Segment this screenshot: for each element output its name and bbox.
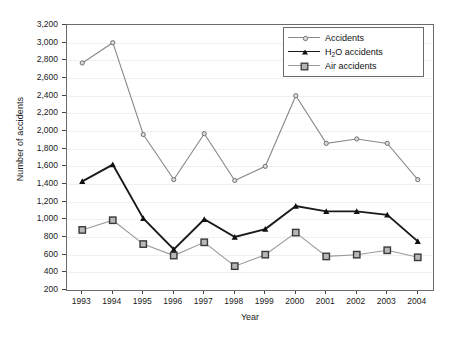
x-tick-label: 1999	[247, 296, 281, 306]
data-point	[110, 161, 116, 167]
data-point	[79, 227, 85, 233]
data-point	[171, 252, 177, 258]
y-tick-label: 3,000	[16, 37, 58, 47]
data-point	[262, 251, 268, 257]
x-tick-label: 1994	[95, 296, 129, 306]
data-point	[263, 164, 267, 168]
y-tick-label: 800	[16, 231, 58, 241]
data-point	[233, 178, 237, 182]
x-tick-label: 2000	[278, 296, 312, 306]
data-point	[202, 132, 206, 136]
x-tick-label: 2002	[339, 296, 373, 306]
series-h2o-accidents	[79, 161, 421, 252]
y-tick-label: 3,200	[16, 19, 58, 29]
x-axis-title: Year	[60, 312, 440, 322]
data-point	[416, 177, 420, 181]
x-tick-label: 1996	[156, 296, 190, 306]
legend-item-accidents[interactable]: Accidents	[287, 31, 419, 45]
legend-symbol-circle-icon	[287, 32, 321, 44]
legend-label-h2o-accidents: H2O accidents	[321, 47, 383, 57]
data-point	[384, 247, 390, 253]
x-tick-label: 2004	[400, 296, 434, 306]
data-point	[201, 239, 207, 245]
data-point	[324, 141, 328, 145]
data-point	[354, 251, 360, 257]
data-point	[323, 253, 329, 259]
data-point	[355, 137, 359, 141]
legend-item-h2o-accidents[interactable]: H2O accidents	[287, 45, 419, 59]
data-point	[293, 229, 299, 235]
data-point	[232, 263, 238, 269]
data-point	[415, 254, 421, 260]
x-tick-label: 2003	[369, 296, 403, 306]
data-point	[110, 217, 116, 223]
legend-symbol-triangle-icon	[287, 46, 321, 58]
legend-label-air-accidents: Air accidents	[321, 61, 377, 71]
y-axis-title: Number of accidents	[15, 79, 25, 199]
data-point	[141, 132, 145, 136]
data-point	[140, 241, 146, 247]
x-tick-label: 1995	[125, 296, 159, 306]
legend-label-accidents: Accidents	[321, 33, 364, 43]
data-point	[201, 216, 207, 222]
y-tick-label: 1,000	[16, 213, 58, 223]
y-tick-label: 2,800	[16, 54, 58, 64]
x-tick-label: 2001	[308, 296, 342, 306]
legend-symbol-square-icon	[287, 60, 321, 72]
x-tick-label: 1998	[217, 296, 251, 306]
x-tick-label: 1997	[186, 296, 220, 306]
y-tick-label: 200	[16, 284, 58, 294]
data-point	[80, 61, 84, 65]
y-tick-label: 400	[16, 266, 58, 276]
chart-legend: Accidents H2O accidents Air accidents	[283, 27, 424, 77]
x-tick-label: 1993	[64, 296, 98, 306]
data-point	[111, 41, 115, 45]
data-point	[294, 94, 298, 98]
data-point	[385, 141, 389, 145]
legend-item-air-accidents[interactable]: Air accidents	[287, 59, 419, 73]
y-tick-label: 600	[16, 249, 58, 259]
data-point	[172, 177, 176, 181]
series-air-accidents	[79, 217, 421, 269]
accidents-line-chart: Number of accidents Year 2004006008001,0…	[0, 0, 452, 337]
